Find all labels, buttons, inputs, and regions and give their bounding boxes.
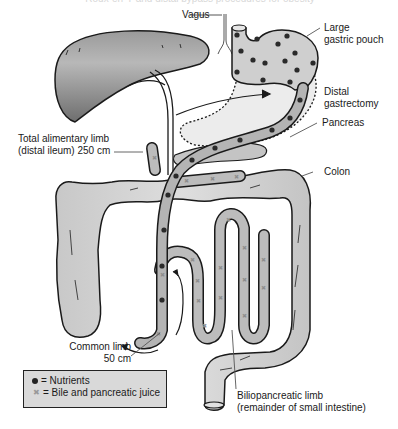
large-gastric-pouch-label: Large gastric pouch xyxy=(324,22,383,46)
svg-text:✖: ✖ xyxy=(261,257,266,263)
svg-text:✖: ✖ xyxy=(160,272,165,278)
svg-text:✖: ✖ xyxy=(202,323,207,329)
common-limb-label-line-1: Common limb xyxy=(67,341,131,353)
svg-text:✖: ✖ xyxy=(234,174,239,180)
svg-text:✖: ✖ xyxy=(184,178,189,184)
svg-text:✖: ✖ xyxy=(152,155,157,161)
large-gastric-pouch xyxy=(232,25,318,90)
legend-label-nutrients: = Nutrients xyxy=(41,375,90,387)
total-alimentary-limb-label-line-1: Total alimentary limb xyxy=(18,133,110,145)
distal-gastrectomy-label-line-1: Distal xyxy=(324,86,378,98)
legend-item-bile: ✖ = Bile and pancreatic juice xyxy=(32,387,166,399)
liver xyxy=(55,31,209,122)
svg-text:✖: ✖ xyxy=(195,278,200,284)
svg-text:✖: ✖ xyxy=(261,285,266,291)
vagus-label: Vagus xyxy=(182,9,210,21)
biliopancreatic-limb-label-line-2: (remainder of small intestine) xyxy=(237,402,366,414)
svg-text:✖: ✖ xyxy=(218,295,223,301)
common-limb-label-line-2: 50 cm xyxy=(67,353,131,365)
nutrient-dot-icon xyxy=(32,378,38,384)
biliopancreatic-limb-label-line-1: Biliopancreatic limb xyxy=(237,390,366,402)
biliopancreatic-limb-label: Biliopancreatic limb (remainder of small… xyxy=(237,390,366,414)
common-limb-label: Common limb 50 cm xyxy=(67,341,131,365)
svg-text:✖: ✖ xyxy=(242,277,247,283)
total-alimentary-limb-label: Total alimentary limb (distal ileum) 250… xyxy=(18,133,110,157)
colon-label: Colon xyxy=(324,166,350,178)
svg-text:✖: ✖ xyxy=(226,217,231,223)
svg-text:✖: ✖ xyxy=(242,245,247,251)
biliopancreatic-limb: ✖✖✖ ✖✖✖ ✖✖✖ ✖✖✖ xyxy=(160,214,266,339)
legend-item-nutrients: = Nutrients xyxy=(32,375,166,387)
distal-gastrectomy-label-line-2: gastrectomy xyxy=(324,98,378,110)
bile-x-icon: ✖ xyxy=(32,389,40,397)
large-gastric-pouch-label-line-1: Large xyxy=(324,22,383,34)
total-alimentary-limb-label-line-2: (distal ileum) 250 cm xyxy=(18,145,110,157)
legend-label-bile: = Bile and pancreatic juice xyxy=(43,387,160,399)
svg-text:✖: ✖ xyxy=(190,257,195,263)
gastric-bypass-diagram: ✖✖✖ ✖✖✖ ✖✖✖ ✖✖✖ ✖✖✖✖ ✖✖ xyxy=(0,0,398,429)
legend: = Nutrients ✖ = Bile and pancreatic juic… xyxy=(23,370,167,408)
pancreas-label: Pancreas xyxy=(322,117,364,129)
svg-text:✖: ✖ xyxy=(196,298,201,304)
svg-text:✖: ✖ xyxy=(210,176,215,182)
svg-text:✖: ✖ xyxy=(218,265,223,271)
svg-text:✖: ✖ xyxy=(242,313,247,319)
large-gastric-pouch-label-line-2: gastric pouch xyxy=(324,34,383,46)
distal-gastrectomy-label: Distal gastrectomy xyxy=(324,86,378,110)
